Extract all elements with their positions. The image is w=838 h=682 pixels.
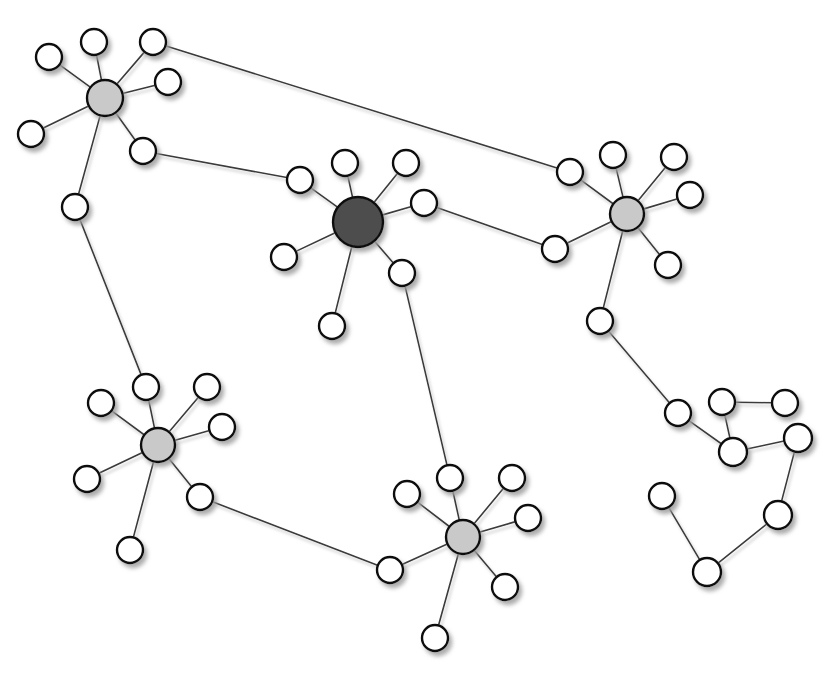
graph-node-c3[interactable] — [709, 389, 735, 415]
graph-node-h5a[interactable] — [394, 481, 420, 507]
graph-edge — [688, 420, 723, 445]
graph-edge — [115, 112, 136, 141]
graph-edge — [374, 240, 394, 264]
graph-node-h3f[interactable] — [655, 252, 681, 278]
graph-edge — [42, 105, 90, 128]
graph-node-h1a[interactable] — [81, 29, 107, 55]
graph-edge — [473, 549, 497, 578]
graph-node-h2e[interactable] — [271, 244, 297, 270]
graph-edge — [173, 430, 210, 440]
graph-node-h5e[interactable] — [377, 557, 403, 583]
graph-edge — [111, 410, 145, 435]
graph-edge — [405, 285, 448, 467]
graph-node-h4b[interactable] — [133, 374, 159, 400]
graph-node-h4[interactable] — [141, 428, 175, 462]
graph-node-h3c[interactable] — [661, 144, 687, 170]
graph-edge — [453, 490, 460, 522]
graph-node-c4[interactable] — [772, 390, 798, 416]
edges-layer — [42, 46, 795, 627]
graph-node-h1e[interactable] — [18, 121, 44, 147]
graph-edge — [78, 114, 100, 195]
graph-node-h5c[interactable] — [499, 465, 525, 491]
graph-node-h3a[interactable] — [557, 159, 583, 185]
graph-node-h1f[interactable] — [130, 138, 156, 164]
graph-node-c6[interactable] — [764, 501, 792, 529]
graph-edge — [295, 232, 336, 252]
graph-edge — [373, 172, 398, 203]
graph-edge — [717, 523, 768, 564]
graph-node-h3[interactable] — [610, 197, 644, 231]
graph-node-h5[interactable] — [446, 520, 480, 554]
graph-node-h5f[interactable] — [492, 574, 518, 600]
graph-node-h2c[interactable] — [393, 150, 419, 176]
graph-edge — [603, 230, 623, 310]
graph-node-h2f[interactable] — [389, 260, 415, 286]
graph-edge — [155, 153, 288, 178]
graph-node-h1d[interactable] — [155, 69, 181, 95]
graph-edge — [478, 521, 516, 532]
graph-edge — [734, 402, 773, 403]
graph-node-c2[interactable] — [719, 438, 747, 466]
graph-node-h3g[interactable] — [587, 308, 613, 334]
graph-edge — [616, 167, 624, 199]
graph-edge — [79, 218, 141, 376]
graph-edge — [725, 414, 731, 440]
graph-node-h5b[interactable] — [437, 465, 463, 491]
network-graph-svg — [0, 0, 838, 682]
network-graph-canvas — [0, 0, 838, 682]
graph-edge — [211, 501, 379, 565]
graph-edge — [116, 51, 145, 85]
nodes-layer — [18, 29, 812, 651]
graph-edge — [381, 206, 412, 215]
graph-node-h5d[interactable] — [515, 505, 541, 531]
graph-edge — [59, 64, 92, 88]
graph-edge — [668, 506, 700, 560]
graph-node-h1b[interactable] — [36, 44, 62, 70]
graph-node-c5[interactable] — [784, 424, 812, 452]
graph-node-h4e[interactable] — [74, 466, 100, 492]
graph-edge — [401, 544, 448, 565]
graph-edge — [335, 245, 352, 314]
graph-edge — [435, 207, 543, 245]
graph-node-c8[interactable] — [649, 483, 675, 509]
graph-node-h4c[interactable] — [194, 374, 220, 400]
graph-node-h1c[interactable] — [140, 29, 166, 55]
graph-node-h2b[interactable] — [332, 150, 358, 176]
graph-node-h1g[interactable] — [62, 194, 88, 220]
graph-edge — [637, 226, 660, 255]
graph-node-h1[interactable] — [87, 80, 123, 116]
graph-edge — [608, 330, 670, 404]
graph-node-c1[interactable] — [665, 400, 691, 426]
graph-edge — [96, 54, 101, 82]
graph-node-h2a[interactable] — [287, 167, 313, 193]
graph-edge — [133, 460, 154, 538]
graph-edge — [164, 46, 558, 169]
graph-node-c7[interactable] — [693, 558, 721, 586]
graph-edge — [310, 187, 339, 208]
graph-edge — [417, 501, 451, 527]
graph-node-h5g[interactable] — [422, 625, 448, 651]
graph-node-h4d[interactable] — [209, 414, 235, 440]
graph-node-h4g[interactable] — [117, 537, 143, 563]
graph-node-h3e[interactable] — [542, 236, 568, 262]
graph-edge — [438, 552, 459, 626]
graph-node-h3b[interactable] — [600, 142, 626, 168]
graph-edge — [121, 85, 156, 94]
graph-edge — [642, 198, 678, 209]
graph-node-h2g[interactable] — [319, 313, 345, 339]
graph-node-h4a[interactable] — [88, 390, 114, 416]
graph-node-h2d[interactable] — [411, 190, 437, 216]
graph-node-h2[interactable] — [333, 197, 383, 247]
graph-edge — [781, 451, 794, 503]
graph-node-h4f[interactable] — [187, 484, 213, 510]
graph-edge — [746, 441, 786, 450]
graph-edge — [98, 452, 144, 474]
graph-edge — [348, 175, 353, 199]
graph-edge — [637, 166, 666, 201]
graph-edge — [580, 179, 614, 204]
graph-edge — [566, 221, 613, 244]
graph-node-h3d[interactable] — [677, 182, 703, 208]
graph-edge — [473, 487, 504, 524]
graph-edge — [148, 399, 154, 430]
graph-edge — [168, 457, 192, 487]
